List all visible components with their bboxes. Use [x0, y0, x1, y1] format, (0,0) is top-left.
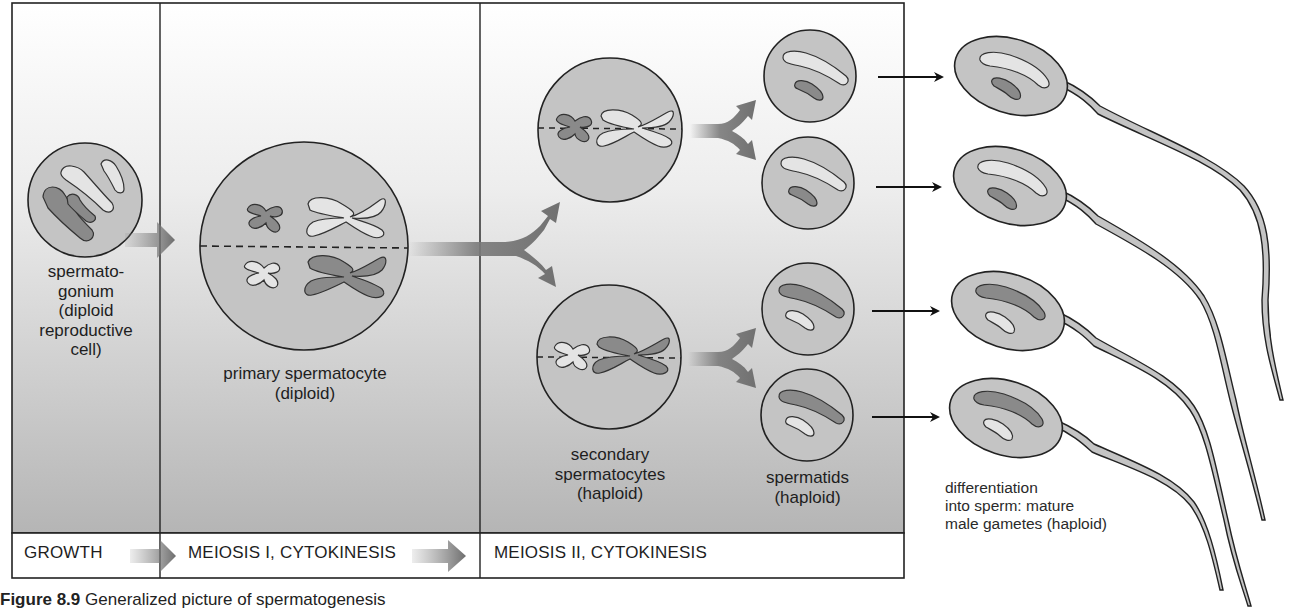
spermatid-4: [761, 369, 853, 461]
figure-number: Figure 8.9: [0, 590, 80, 609]
stage-growth: GROWTH: [24, 536, 103, 570]
spermatogonium-label: spermato- gonium (diploid reproductive c…: [12, 262, 160, 360]
secondary-spermatocyte-bottom-cell: [537, 285, 681, 429]
secondary-spermatocyte-top-cell: [538, 58, 682, 202]
spermatid-3: [762, 263, 854, 355]
secondary-spermatocytes-label: secondary spermatocytes (haploid): [530, 445, 690, 504]
stage-meiosis-2: MEIOSIS II, CYTOKINESIS: [494, 536, 707, 570]
primary-spermatocyte-label: primary spermatocyte (diploid): [190, 364, 420, 403]
spermatids-label: spermatids (haploid): [745, 468, 870, 507]
spermatid-2: [762, 137, 854, 229]
sperm-differentiation-label: differentiation into sperm: mature male …: [945, 479, 1185, 533]
figure-caption: Figure 8.9 Generalized picture of sperma…: [0, 590, 386, 610]
figure-caption-text: Generalized picture of spermatogenesis: [85, 590, 386, 609]
stage-meiosis-1: MEIOSIS I, CYTOKINESIS: [188, 536, 396, 570]
spermatid-1: [764, 30, 856, 122]
spermatogonium-cell: [28, 143, 142, 257]
stage-bar: [12, 533, 904, 596]
primary-spermatocyte-cell: [200, 142, 408, 350]
